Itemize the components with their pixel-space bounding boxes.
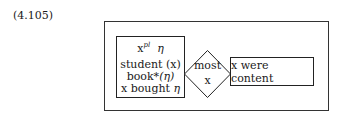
quantifier-most: most bbox=[184, 58, 231, 73]
plural-marker: pl bbox=[143, 41, 150, 49]
condition-bought: x bought η bbox=[117, 83, 184, 95]
quantifier-var: x bbox=[184, 73, 231, 88]
referent-eta: η bbox=[157, 42, 164, 55]
restrictor-universe: xpl η bbox=[117, 39, 184, 55]
scope-drs-box: x were content bbox=[230, 57, 314, 86]
restrictor-drs-box: xpl η student (x) book*(η) x bought η bbox=[116, 36, 185, 98]
equation-number: (4.105) bbox=[13, 9, 53, 22]
quantifier-label: most x bbox=[184, 58, 231, 88]
scope-condition: x were content bbox=[231, 59, 313, 85]
